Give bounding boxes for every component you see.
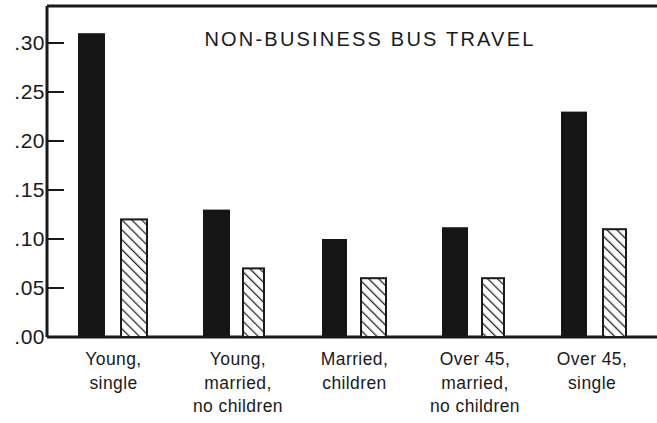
bar-solid	[442, 227, 468, 337]
bar-hatched	[121, 219, 147, 337]
bar-chart: NON-BUSINESS BUS TRAVEL .30.25.20.15.10.…	[0, 0, 657, 423]
bar-solid	[78, 33, 105, 337]
plot-area	[0, 0, 657, 423]
bar-hatched	[603, 229, 626, 337]
bar-solid	[203, 210, 230, 337]
bar-hatched	[482, 278, 504, 337]
bar-hatched	[361, 278, 386, 337]
bar-series-group	[78, 33, 626, 337]
bar-solid	[561, 112, 587, 337]
bar-solid	[322, 239, 347, 337]
bar-hatched	[243, 268, 264, 337]
